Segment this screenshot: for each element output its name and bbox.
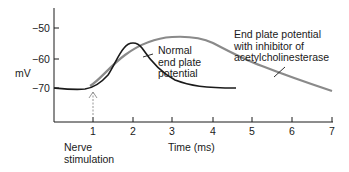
x-tick-label: 6: [289, 125, 295, 137]
x-tick-label: 3: [169, 125, 175, 137]
normal-epp-label-line: potential: [158, 68, 201, 80]
x-tick-label: 7: [329, 125, 335, 137]
normal-epp-curve: [54, 43, 236, 89]
y-tick-label: −50: [32, 22, 50, 34]
stimulation-label-line: stimulation: [64, 154, 114, 166]
normal-epp-label-line: Normal: [158, 45, 201, 57]
y-tick-label: −60: [32, 53, 50, 65]
stimulation-arrow-icon: [89, 92, 97, 116]
x-tick-label: 4: [210, 125, 216, 137]
inhibitor-epp-label: End plate potential with inhibitor of ac…: [234, 29, 329, 64]
y-axis-label: mV: [15, 68, 31, 79]
x-tick-label: 2: [130, 125, 136, 137]
normal-epp-label: Normal end plate potential: [158, 45, 201, 80]
stimulation-label: Nerve stimulation: [64, 142, 114, 165]
x-axis-label: Time (ms): [168, 142, 215, 153]
x-ticks: [93, 117, 332, 122]
y-tick-label: −70: [32, 82, 50, 94]
inhibitor-epp-label-line: End plate potential: [234, 29, 329, 41]
x-tick-label: 1: [90, 125, 96, 137]
inhibitor-epp-label-line: acetylcholinesterase: [234, 52, 329, 64]
stimulation-label-line: Nerve: [64, 142, 114, 154]
x-tick-label: 5: [249, 125, 255, 137]
